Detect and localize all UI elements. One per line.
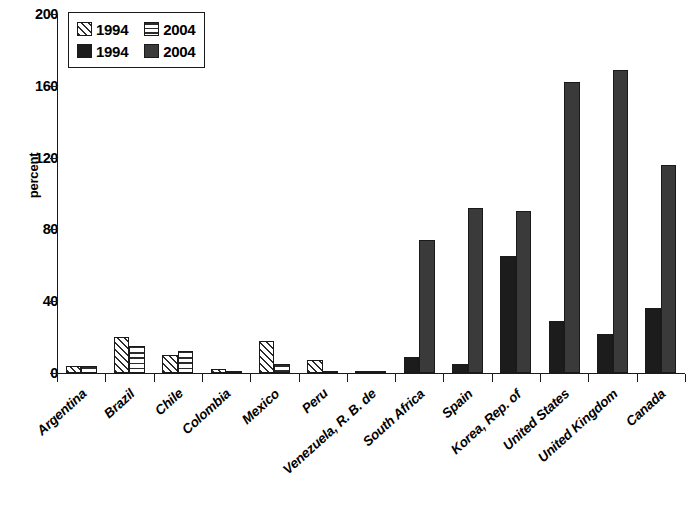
bar (81, 366, 97, 373)
bar-group (637, 14, 685, 373)
y-tick-mark (50, 86, 57, 87)
solid-darkgray-swatch-icon (144, 44, 159, 58)
x-axis-label: Colombia (179, 386, 234, 437)
legend-label: 1994 (96, 22, 128, 37)
x-tick-mark (637, 374, 638, 382)
bar (323, 371, 339, 373)
bar (66, 366, 82, 373)
bar-group (540, 14, 588, 373)
bar (129, 346, 145, 373)
legend-label: 2004 (163, 22, 195, 37)
x-axis-label: Spain (439, 386, 476, 421)
x-tick-mark (202, 374, 203, 382)
x-axis-label: Brazil (101, 386, 137, 421)
y-tick-mark (50, 229, 57, 230)
bar-group (202, 14, 250, 373)
x-axis-label: Chile (152, 386, 186, 419)
legend-item: 2004 (144, 22, 195, 37)
bar (226, 371, 242, 373)
legend-label: 2004 (163, 44, 195, 59)
bar-group (299, 14, 347, 373)
x-tick-mark (395, 374, 396, 382)
bar (452, 364, 468, 373)
bar-group (492, 14, 540, 373)
x-axis-label: Venezuela, R. B. de (280, 386, 379, 477)
hatch-horizontal-swatch-icon (144, 22, 159, 36)
bar-group (347, 14, 395, 373)
bar-group (250, 14, 298, 373)
legend-item: 1994 (77, 22, 128, 37)
y-axis-ticks: 04080120160200 (0, 0, 58, 519)
bar-group (395, 14, 443, 373)
x-tick-mark (588, 374, 589, 382)
bar (613, 70, 629, 373)
legend-row: 19942004 (77, 40, 195, 62)
bar-group (588, 14, 636, 373)
bar (516, 211, 532, 373)
bar (468, 208, 484, 373)
x-tick-mark (540, 374, 541, 382)
x-tick-mark (105, 374, 106, 382)
bar (211, 369, 227, 373)
x-tick-mark (443, 374, 444, 382)
bar (114, 337, 130, 373)
legend-row: 19942004 (77, 18, 195, 40)
bar (645, 308, 661, 373)
bar (549, 321, 565, 373)
bar (274, 364, 290, 373)
bar-chart: percent 04080120160200 ArgentinaBrazilCh… (0, 0, 692, 519)
y-tick-mark (50, 301, 57, 302)
legend-item: 1994 (77, 44, 128, 59)
legend-item: 2004 (144, 44, 195, 59)
x-tick-mark (347, 374, 348, 382)
bar (371, 371, 387, 373)
y-tick-mark (50, 373, 57, 374)
bar (355, 371, 371, 373)
legend-label: 1994 (96, 44, 128, 59)
bar (162, 355, 178, 373)
hatch-diagonal-swatch-icon (77, 22, 92, 36)
bar (500, 256, 516, 373)
x-axis-label: Mexico (239, 386, 282, 427)
y-tick-mark (50, 158, 57, 159)
bar (178, 351, 194, 373)
bar (564, 82, 580, 373)
x-tick-mark (57, 374, 58, 382)
bar (661, 165, 677, 373)
bar (597, 334, 613, 373)
bar (419, 240, 435, 373)
x-axis-label: Peru (299, 386, 331, 417)
x-tick-mark (685, 374, 686, 382)
bar (307, 360, 323, 373)
bar (404, 357, 420, 373)
bar (259, 341, 275, 373)
bar-group (443, 14, 491, 373)
x-tick-mark (154, 374, 155, 382)
x-tick-mark (250, 374, 251, 382)
chart-legend: 1994200419942004 (68, 12, 205, 68)
x-tick-mark (492, 374, 493, 382)
x-axis-line (57, 373, 685, 374)
x-axis-label: Canada (623, 386, 668, 429)
solid-black-swatch-icon (77, 44, 92, 58)
x-tick-mark (299, 374, 300, 382)
y-tick-mark (50, 14, 57, 15)
